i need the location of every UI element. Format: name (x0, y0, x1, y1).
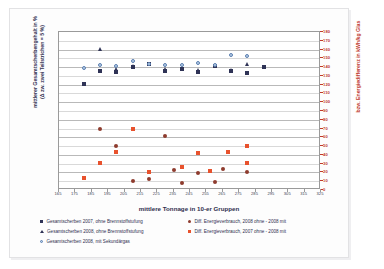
data-point (245, 62, 249, 66)
data-point (245, 71, 249, 75)
gridline (59, 93, 319, 94)
data-point (163, 63, 167, 67)
y-axis-right-tick-label: 120 (323, 81, 330, 86)
x-axis-tick-label: 185 (87, 191, 94, 196)
x-axis-tick-label: 225 (153, 191, 160, 196)
data-point (131, 127, 135, 131)
y-axis-right-tick-label: 70 (323, 125, 328, 130)
y-axis-right-tick-label: 80 (323, 116, 328, 121)
data-point (147, 177, 151, 181)
data-point (196, 151, 200, 155)
data-point (98, 161, 102, 165)
data-point (213, 63, 217, 67)
x-axis-tick-label: 205 (120, 191, 127, 196)
x-axis-tick-label: 255 (202, 191, 209, 196)
legend-item[interactable]: Gesamtscherben 2007, ohne Brennstoffstuf… (40, 219, 143, 224)
data-point (82, 66, 86, 70)
x-axis-tick-label: 175 (71, 191, 78, 196)
data-point (163, 67, 167, 71)
gridline (59, 120, 319, 121)
data-point (245, 54, 249, 58)
legend-marker-icon (40, 220, 43, 223)
data-point (98, 63, 102, 67)
legend-marker-icon (40, 230, 44, 233)
gridline (59, 111, 319, 112)
data-point (245, 144, 249, 148)
gridline (59, 137, 319, 138)
x-axis-tick-label: 215 (136, 191, 143, 196)
data-point (221, 167, 225, 171)
gridline (59, 155, 319, 156)
y-axis-right-tick-label: 150 (323, 55, 330, 60)
x-axis-tick-label: 275 (235, 191, 242, 196)
y-axis-right-tick-label: 20 (323, 169, 328, 174)
legend-label: Diff. Energieverbrauch, 2008 ohne - 2008… (194, 219, 286, 224)
x-axis-title: mittlere Tonnage in 10-er Gruppen (58, 205, 320, 212)
y-axis-right-title: bzw. Energiedifferenz in kWh/kg Glas (355, 7, 362, 127)
chart-screenshot: mittlerer Gesamtscherbengehalt in % (Δ z… (0, 0, 384, 269)
data-point (229, 53, 233, 57)
x-axis-tick-label: 315 (300, 191, 307, 196)
gridline (59, 102, 319, 103)
data-point (172, 168, 176, 172)
data-point (131, 59, 135, 63)
legend-item[interactable]: Diff. Energieverbrauch, 2008 ohne - 2008… (188, 219, 286, 224)
gridline (59, 85, 319, 86)
legend-label: Gesamtscherben 2007, ohne Brennstoffstuf… (46, 219, 142, 224)
y-axis-right-tick-label: 170 (323, 37, 330, 42)
data-point (98, 47, 102, 51)
data-point (245, 170, 249, 174)
y-axis-left-title: mittlerer Gesamtscherbengehalt in % (Δ z… (32, 0, 46, 127)
x-axis-tick-label: 165 (55, 191, 62, 196)
legend-marker-icon (188, 230, 191, 233)
gridline (59, 172, 319, 173)
legend-item[interactable]: Gesamtscherben 2008, mit Sekundärgas (40, 239, 130, 244)
data-point (131, 64, 135, 68)
data-point (82, 176, 86, 180)
y-axis-right-tick-label: 140 (323, 64, 330, 69)
data-point (114, 70, 118, 74)
gridline (59, 41, 319, 42)
x-axis-tick-label: 265 (218, 191, 225, 196)
data-point (245, 161, 249, 165)
data-point (114, 144, 118, 148)
y-axis-left-title-line2: (Δ zw. zwei Teilstrichen = 5 %) (39, 0, 46, 127)
data-point (98, 127, 102, 131)
data-point (196, 61, 200, 65)
data-point (196, 68, 200, 72)
legend-label: Gesamtscherben 2008, ohne Brennstoffstuf… (47, 229, 143, 234)
data-point (208, 169, 212, 173)
data-point (163, 134, 167, 138)
data-point (226, 150, 230, 154)
y-axis-right-tick-label: 90 (323, 108, 328, 113)
data-point (180, 165, 184, 169)
data-point (147, 170, 151, 174)
chart-card: mittlerer Gesamtscherbengehalt in % (Δ z… (9, 8, 349, 258)
y-axis-left-title-line1: mittlerer Gesamtscherbengehalt in % (32, 0, 39, 127)
x-axis-tick-label: 235 (169, 191, 176, 196)
legend-marker-icon (40, 240, 43, 243)
legend-item[interactable]: Diff. Energieverbrauch, 2007 ohne - 2008… (188, 229, 286, 234)
y-axis-right-tick-label: 110 (323, 90, 330, 95)
x-axis-tick-label: 285 (251, 191, 258, 196)
chart-legend: Gesamtscherben 2007, ohne Brennstoffstuf… (40, 219, 358, 253)
data-point (196, 171, 200, 175)
y-axis-right-tick-label: 50 (323, 143, 328, 148)
x-axis-tick-label: 195 (104, 191, 111, 196)
plot-area (58, 31, 320, 189)
y-axis-right-tick-label: 40 (323, 151, 328, 156)
y-axis-right-tick-label: 10 (323, 178, 328, 183)
plot-area-wrapper: mittlerer Gesamtscherbengehalt in % (Δ z… (10, 9, 348, 257)
gridline (59, 146, 319, 147)
gridline (59, 76, 319, 77)
x-axis-tick-label: 295 (267, 191, 274, 196)
y-axis-right-tick-label: 160 (323, 46, 330, 51)
y-axis-right-tick-label: 100 (323, 99, 330, 104)
legend-item[interactable]: Gesamtscherben 2008, ohne Brennstoffstuf… (40, 229, 143, 234)
data-point (82, 82, 86, 86)
x-axis-tick-label: 245 (186, 191, 193, 196)
data-point (114, 64, 118, 68)
legend-marker-icon (188, 220, 191, 223)
gridline (59, 181, 319, 182)
y-axis-right-tick-label: 60 (323, 134, 328, 139)
